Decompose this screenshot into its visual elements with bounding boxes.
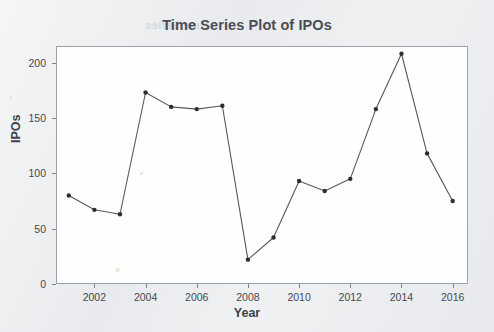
y-tick-mark [52, 118, 56, 119]
x-tick-mark [248, 284, 249, 288]
data-point [246, 257, 250, 261]
ipos-series-markers [67, 52, 455, 262]
x-tick-label: 2012 [330, 291, 370, 303]
scan-speck [115, 268, 120, 272]
x-axis-title: Year [0, 306, 494, 320]
series-plot [56, 46, 468, 284]
scan-speck [9, 96, 12, 99]
x-tick-label: 2004 [126, 291, 166, 303]
data-point [143, 90, 147, 94]
y-tick-mark [52, 63, 56, 64]
x-tick-mark [350, 284, 351, 288]
data-point [297, 179, 301, 183]
y-tick-label: 100 [14, 167, 46, 179]
x-tick-label: 2006 [177, 291, 217, 303]
scanned-chart-page: Time Series Time Series Plot of IPOs 050… [0, 0, 494, 332]
data-point [195, 107, 199, 111]
x-tick-label: 2008 [228, 291, 268, 303]
x-tick-label: 2010 [279, 291, 319, 303]
x-tick-mark [94, 284, 95, 288]
data-point [92, 208, 96, 212]
data-point [220, 104, 224, 108]
data-point [67, 193, 71, 197]
y-axis-title: IPOs [9, 115, 23, 144]
y-tick-label: 50 [14, 223, 46, 235]
data-point [271, 235, 275, 239]
data-point [323, 189, 327, 193]
data-point [450, 199, 454, 203]
data-point [118, 212, 122, 216]
x-tick-label: 2016 [433, 291, 473, 303]
x-tick-mark [453, 284, 454, 288]
scan-speck [140, 172, 143, 175]
y-tick-label: 0 [14, 278, 46, 290]
data-point [399, 52, 403, 56]
data-point [374, 107, 378, 111]
x-tick-mark [299, 284, 300, 288]
x-tick-label: 2014 [381, 291, 421, 303]
y-tick-mark [52, 173, 56, 174]
chart-title: Time Series Plot of IPOs [0, 17, 494, 33]
y-tick-mark [52, 229, 56, 230]
y-tick-label: 200 [14, 57, 46, 69]
x-tick-mark [401, 284, 402, 288]
data-point [169, 105, 173, 109]
x-tick-mark [197, 284, 198, 288]
data-point [348, 177, 352, 181]
ipos-series-line [69, 54, 453, 260]
x-tick-label: 2002 [74, 291, 114, 303]
y-tick-mark [52, 284, 56, 285]
x-tick-mark [146, 284, 147, 288]
data-point [425, 151, 429, 155]
